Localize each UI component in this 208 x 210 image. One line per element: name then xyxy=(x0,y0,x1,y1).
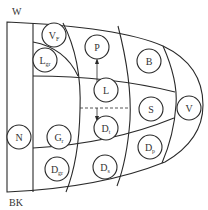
region-b: B xyxy=(137,49,161,73)
region-dgr: Dgr xyxy=(45,157,69,181)
region-dt: Dt xyxy=(94,116,118,140)
label-w: W xyxy=(12,6,22,17)
region-ds: Ds xyxy=(93,155,117,179)
region-label: V xyxy=(185,103,193,114)
region-n: N xyxy=(7,125,31,149)
vertical-divider-3 xyxy=(162,46,176,163)
region-p: P xyxy=(85,35,109,59)
region-dp: Dp xyxy=(138,135,162,159)
region-label: B xyxy=(146,56,153,67)
region-vf: VF xyxy=(42,23,66,47)
region-label: L xyxy=(103,85,109,96)
region-lgr: Lgr xyxy=(33,48,57,72)
region-label: P xyxy=(94,42,100,53)
region-gr: Gr xyxy=(47,125,71,149)
anatomical-region-diagram: W BK NVFLgrGrDgrPLDtDsBSDpV xyxy=(0,0,208,210)
region-label: N xyxy=(15,132,22,143)
region-label: S xyxy=(148,104,154,115)
region-s: S xyxy=(139,97,163,121)
region-v: V xyxy=(177,96,201,120)
vertical-divider-2 xyxy=(117,26,130,186)
region-l: L xyxy=(94,78,118,102)
label-bk: BK xyxy=(9,197,24,208)
